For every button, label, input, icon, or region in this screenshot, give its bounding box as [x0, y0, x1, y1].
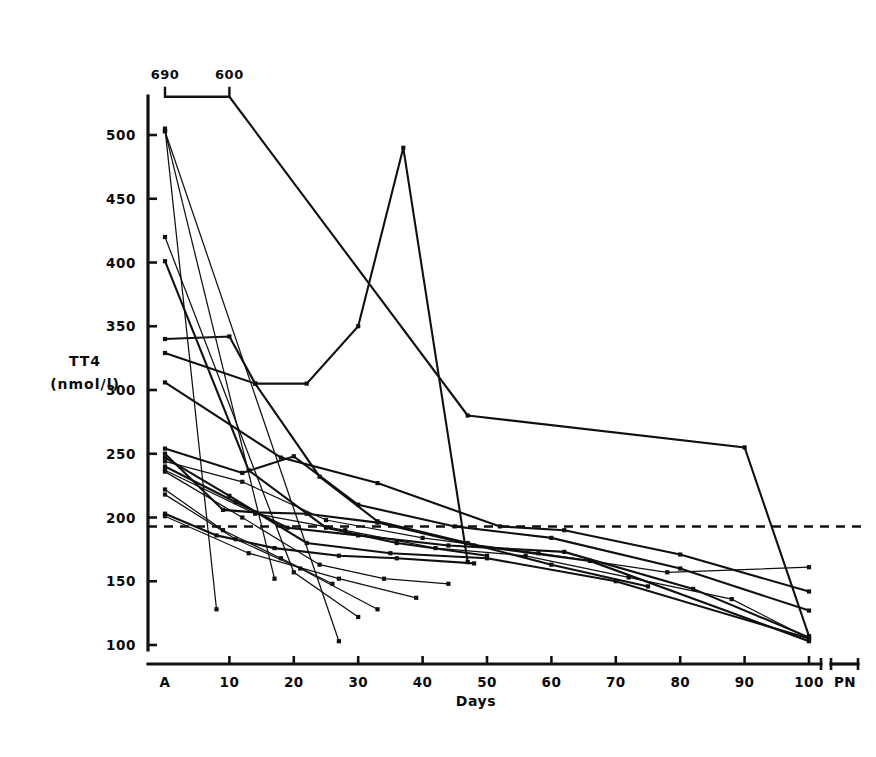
- data-point-marker: [549, 536, 553, 540]
- x-axis-tick-label: 70: [606, 674, 626, 690]
- data-point-marker: [163, 470, 167, 474]
- x-axis-tick-label: 40: [413, 674, 433, 690]
- data-point-marker: [743, 445, 747, 449]
- data-point-marker: [214, 533, 218, 537]
- y-axis-title-line2: (nmol/l): [50, 376, 120, 392]
- figure-root: 100150200250300350400450500A102030405060…: [0, 0, 876, 757]
- data-point-marker: [730, 597, 734, 601]
- data-point-marker: [163, 129, 167, 133]
- data-point-marker: [395, 556, 399, 560]
- data-point-marker: [221, 508, 225, 512]
- data-point-marker: [163, 492, 167, 496]
- data-point-marker: [163, 380, 167, 384]
- x-axis-tick-label: 50: [477, 674, 497, 690]
- series-patient-08: [163, 351, 650, 589]
- series-patient-06: [163, 259, 489, 558]
- data-point-marker: [446, 582, 450, 586]
- data-point-marker: [163, 259, 167, 263]
- x-axis-tick-label: 20: [284, 674, 304, 690]
- series-line: [165, 237, 358, 617]
- data-point-marker: [388, 551, 392, 555]
- y-axis-tick-label: 100: [106, 637, 136, 653]
- data-point-marker: [807, 637, 811, 641]
- data-point-marker: [375, 607, 379, 611]
- data-point-marker: [421, 536, 425, 540]
- offscale-label-600: 600: [215, 67, 244, 82]
- series-patient-10: [163, 447, 811, 613]
- y-axis-title-line1: TT4: [69, 353, 101, 369]
- data-point-marker: [646, 584, 650, 588]
- data-point-marker: [807, 609, 811, 613]
- series-patient-09: [163, 380, 811, 593]
- data-point-marker: [433, 546, 437, 550]
- y-axis-tick-label: 150: [106, 573, 136, 589]
- data-point-marker: [337, 639, 341, 643]
- data-point-marker: [272, 577, 276, 581]
- data-point-marker: [163, 459, 167, 463]
- data-point-marker: [305, 382, 309, 386]
- data-point-marker: [318, 563, 322, 567]
- series-patient-16: [163, 487, 335, 586]
- y-axis-tick-label: 250: [106, 446, 136, 462]
- data-point-marker: [562, 550, 566, 554]
- y-axis-tick-label: 450: [106, 191, 136, 207]
- data-point-marker: [163, 337, 167, 341]
- y-axis-tick-label: 200: [106, 510, 136, 526]
- data-point-marker: [240, 480, 244, 484]
- data-point-marker: [227, 334, 231, 338]
- series-line: [165, 353, 648, 586]
- offscale-connector: [229, 97, 467, 416]
- data-point-marker: [485, 556, 489, 560]
- tt4-line-chart: 100150200250300350400450500A102030405060…: [0, 0, 876, 757]
- x-axis-tick-label: 80: [670, 674, 690, 690]
- data-point-marker: [356, 324, 360, 328]
- data-point-marker: [343, 528, 347, 532]
- series-patient-04: [163, 129, 341, 643]
- x-axis-tick-label: PN: [834, 674, 856, 690]
- data-point-marker: [337, 577, 341, 581]
- data-point-marker: [382, 577, 386, 581]
- x-axis-tick-label: 30: [348, 674, 368, 690]
- data-point-marker: [536, 551, 540, 555]
- data-point-marker: [356, 533, 360, 537]
- series-layer: [163, 127, 811, 644]
- offscale-bracket: [165, 87, 229, 97]
- data-point-marker: [163, 456, 167, 460]
- data-point-marker: [163, 235, 167, 239]
- data-point-marker: [807, 589, 811, 593]
- data-point-marker: [163, 447, 167, 451]
- data-point-marker: [214, 607, 218, 611]
- data-point-marker: [163, 464, 167, 468]
- y-axis-tick-label: 400: [106, 255, 136, 271]
- data-point-marker: [807, 565, 811, 569]
- x-axis-tick-label: 10: [220, 674, 240, 690]
- data-point-marker: [665, 570, 669, 574]
- x-axis-tick-label: 100: [794, 674, 823, 690]
- y-axis-tick-label: 350: [106, 318, 136, 334]
- offscale-label-690: 690: [151, 67, 180, 82]
- data-point-marker: [627, 575, 631, 579]
- data-point-marker: [163, 351, 167, 355]
- data-point-marker: [163, 487, 167, 491]
- x-axis-tick-label: 90: [735, 674, 755, 690]
- data-point-marker: [375, 521, 379, 525]
- data-point-marker: [337, 554, 341, 558]
- data-point-marker: [472, 561, 476, 565]
- data-point-marker: [163, 514, 167, 518]
- series-patient-07: [163, 146, 470, 565]
- data-point-marker: [375, 481, 379, 485]
- data-point-marker: [285, 526, 289, 530]
- data-point-marker: [614, 579, 618, 583]
- data-point-marker: [324, 518, 328, 522]
- data-point-marker: [678, 566, 682, 570]
- data-point-marker: [163, 452, 167, 456]
- data-point-marker: [401, 146, 405, 150]
- data-point-marker: [272, 546, 276, 550]
- data-point-marker: [253, 382, 257, 386]
- data-point-marker: [549, 563, 553, 567]
- series-line: [165, 261, 487, 556]
- data-point-marker: [305, 541, 309, 545]
- data-point-marker: [356, 503, 360, 507]
- data-point-marker: [678, 552, 682, 556]
- data-point-marker: [356, 615, 360, 619]
